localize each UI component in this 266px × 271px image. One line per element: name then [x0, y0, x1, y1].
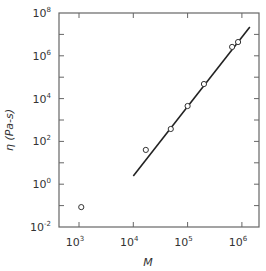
x-tick-label: 106 [229, 235, 248, 249]
y-tick-label: 102 [33, 134, 51, 148]
x-tick-labels: 103104105106 [66, 235, 248, 249]
y-tick-label: 10-2 [30, 220, 51, 234]
chart: 103104105106 10810610410210010-2 M η (Pa… [0, 0, 266, 271]
y-tick-labels: 10810610410210010-2 [30, 6, 52, 234]
data-point-marker [230, 44, 235, 49]
x-tick-label: 103 [66, 235, 84, 249]
x-tick-label: 104 [120, 235, 139, 249]
data-point-marker [79, 205, 84, 210]
data-point-marker [185, 103, 190, 108]
data-point-marker [201, 81, 206, 86]
y-tick-label: 108 [33, 6, 51, 20]
y-tick-label: 100 [33, 177, 51, 191]
data-point-marker [235, 39, 240, 44]
x-axis-title: M [143, 256, 153, 269]
axis-ticks [59, 13, 259, 227]
y-tick-label: 104 [33, 92, 52, 106]
plot-frame [59, 13, 259, 227]
data-point-marker [143, 147, 148, 152]
y-axis-title: η (Pa-s) [3, 109, 16, 151]
x-tick-label: 105 [174, 235, 192, 249]
data-point-marker [168, 126, 173, 131]
y-tick-label: 106 [33, 49, 52, 63]
data-points [79, 39, 241, 209]
